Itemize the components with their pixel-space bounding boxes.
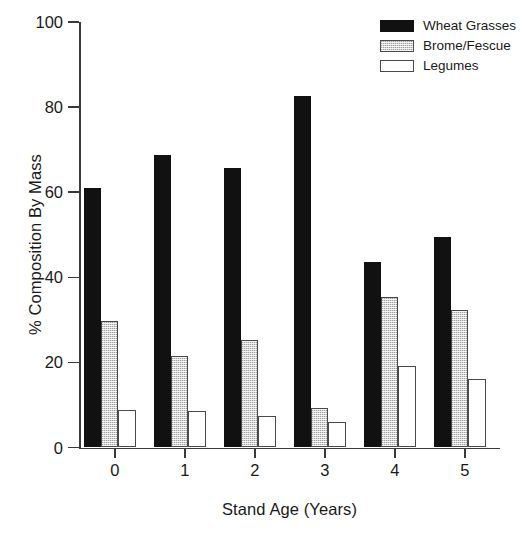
y-axis-tick-label: 60 [3,184,63,201]
legend-label-legumes: Legumes [423,59,479,73]
legend-item-brome-fescue: Brome/Fescue [380,37,516,55]
legend-item-wheat-grasses: Wheat Grasses [380,17,516,35]
bar [311,408,328,448]
bar [328,422,345,448]
x-axis-tick [114,448,116,458]
x-axis-tick-label: 0 [95,462,135,479]
y-axis-tick [68,21,79,23]
x-axis-tick-label: 2 [235,462,275,479]
y-axis-tick [68,191,79,193]
legend-label-brome-fescue: Brome/Fescue [423,39,511,53]
y-axis-title: % Composition By Mass [26,125,45,365]
x-axis-tick-label: 1 [165,462,205,479]
y-axis-tick-label: 20 [3,354,63,371]
y-axis-tick-label: 100 [3,14,63,31]
legend-item-legumes: Legumes [380,57,516,75]
bar [451,310,468,447]
legend-swatch-legumes [380,60,414,72]
x-axis-tick [254,448,256,458]
x-axis-line [79,448,500,450]
bar [468,379,485,447]
y-axis-line [79,22,81,449]
y-axis-tick [68,362,79,364]
x-axis-tick-label: 3 [305,462,345,479]
bar [101,321,118,448]
bar [258,416,275,447]
legend: Wheat Grasses Brome/Fescue Legumes [380,17,516,77]
bar [434,237,451,447]
y-axis-tick-label: 40 [3,269,63,286]
y-axis-tick-label: 80 [3,99,63,116]
bar [224,168,241,447]
bar [398,366,415,448]
legend-swatch-wheat-grasses [380,20,414,32]
x-axis-tick-label: 4 [375,462,415,479]
legend-label-wheat-grasses: Wheat Grasses [423,19,516,33]
bar [364,262,381,447]
bar [171,356,188,448]
bar [154,155,171,448]
y-axis-tick-label: 0 [3,440,63,457]
y-axis-tick [68,106,79,108]
x-axis-tick [464,448,466,458]
x-axis-tick-label: 5 [445,462,485,479]
bar-chart: % Composition By Mass Stand Age (Years) … [0,0,522,540]
bar [381,297,398,447]
x-axis-tick [324,448,326,458]
bar [118,410,135,447]
y-axis-tick [68,277,79,279]
bar [188,411,205,447]
y-axis-tick [68,447,79,449]
x-axis-title: Stand Age (Years) [79,500,500,519]
bar [294,96,311,448]
x-axis-tick [184,448,186,458]
bar [241,340,258,448]
x-axis-tick [394,448,396,458]
legend-swatch-brome-fescue [380,40,414,52]
bar [84,188,101,448]
